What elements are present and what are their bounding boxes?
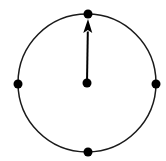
diagram-background — [0, 0, 166, 161]
circle-vector-diagram — [0, 0, 166, 161]
bottom-point — [84, 148, 93, 157]
radius-vector-shaft — [87, 31, 88, 83]
right-point — [152, 80, 161, 89]
top-point — [84, 10, 93, 19]
left-point — [14, 80, 23, 89]
diagram-canvas — [0, 0, 166, 161]
center-point — [83, 79, 92, 88]
